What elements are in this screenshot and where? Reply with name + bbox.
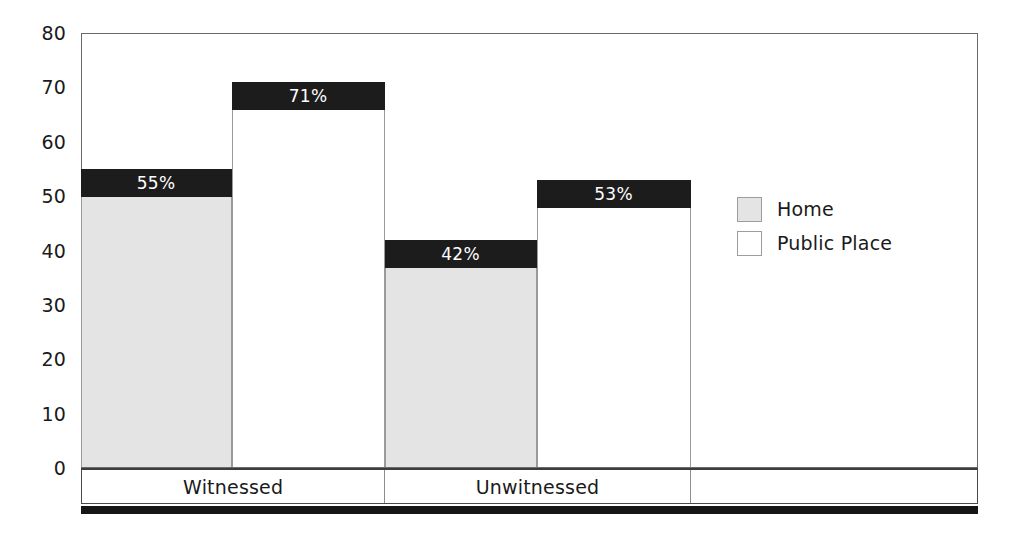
y-axis-tick-label: 0 <box>22 459 66 478</box>
bar[interactable]: 55% <box>81 169 232 467</box>
bar-body <box>232 110 385 467</box>
y-axis-tick-label: 70 <box>22 78 66 97</box>
y-axis-tick-label: 80 <box>22 24 66 43</box>
legend-item[interactable]: Public Place <box>737 226 892 260</box>
y-axis-tick-label: 10 <box>22 404 66 423</box>
bar-body <box>537 208 691 467</box>
bar[interactable]: 71% <box>232 82 385 467</box>
bar-body <box>81 197 232 467</box>
category-label-witnessed: Witnessed <box>82 470 385 503</box>
bar-value-label: 53% <box>537 180 691 208</box>
y-axis-tick-label: 30 <box>22 295 66 314</box>
legend-item[interactable]: Home <box>737 192 892 226</box>
legend-swatch-icon <box>737 197 762 222</box>
category-axis: WitnessedUnwitnessed <box>81 468 978 504</box>
bar-value-label: 55% <box>81 169 232 197</box>
bar[interactable]: 42% <box>385 240 537 467</box>
legend: HomePublic Place <box>737 192 892 260</box>
bar-body <box>385 268 537 467</box>
legend-item-label: Home <box>777 198 834 220</box>
bar-value-label: 42% <box>385 240 537 268</box>
y-axis-tick-label: 50 <box>22 187 66 206</box>
bar-chart-figure: 01020304050607080 55%71%42%53% Witnessed… <box>0 0 1016 547</box>
bar[interactable]: 53% <box>537 180 691 467</box>
bar-value-label: 71% <box>232 82 385 110</box>
legend-swatch-icon <box>737 231 762 256</box>
category-cell-empty <box>691 470 977 503</box>
legend-item-label: Public Place <box>777 232 892 254</box>
y-axis-tick-label: 20 <box>22 350 66 369</box>
bottom-rule <box>81 506 978 514</box>
y-axis-tick-label: 40 <box>22 241 66 260</box>
category-label-unwitnessed: Unwitnessed <box>385 470 690 503</box>
y-axis: 01020304050607080 <box>22 0 66 547</box>
y-axis-tick-label: 60 <box>22 132 66 151</box>
